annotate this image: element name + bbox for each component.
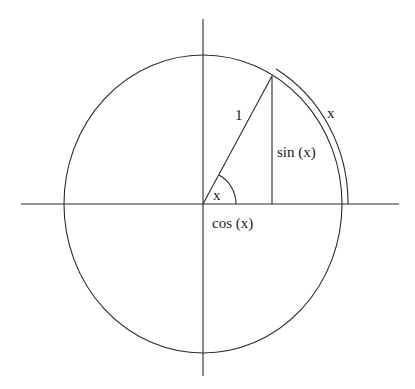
radius-line — [203, 76, 272, 204]
cosine-label: cos (x) — [212, 215, 253, 232]
angle-label: x — [213, 187, 221, 203]
angle-arc — [219, 175, 236, 204]
unit-circle-diagram: 1 x x sin (x) cos (x) — [0, 0, 415, 389]
arc-length-marker — [276, 69, 348, 204]
arc-length-label: x — [327, 105, 335, 121]
radius-label: 1 — [235, 107, 243, 123]
sine-label: sin (x) — [277, 144, 316, 161]
